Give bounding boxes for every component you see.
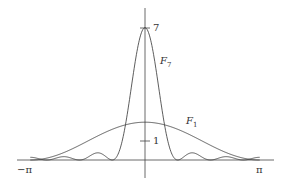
f1-label-main: F [186, 115, 193, 126]
f1-label: F1 [186, 116, 197, 129]
f7-label-main: F [160, 55, 167, 66]
fejer-kernel-plot [0, 0, 290, 192]
f7-label: F7 [160, 56, 171, 69]
tick-label-1: 1 [153, 136, 159, 146]
x-label-neg-pi: −π [17, 165, 32, 175]
tick-label-7: 7 [153, 23, 159, 33]
f7-label-sub: 7 [167, 61, 171, 69]
f1-label-sub: 1 [193, 121, 197, 129]
x-label-pos-pi: π [256, 165, 263, 175]
